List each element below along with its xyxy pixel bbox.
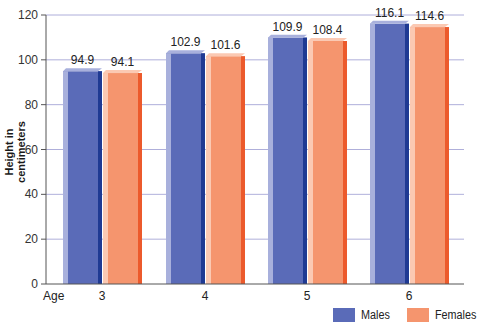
bar-shadow [303, 38, 307, 284]
data-label: 108.4 [312, 23, 342, 37]
bar-top [410, 24, 449, 27]
bar-males [63, 71, 102, 284]
legend-label-males: Males [361, 308, 390, 322]
bar-shadow [138, 73, 142, 284]
bar-highlight [268, 38, 273, 284]
y-tick-label: 0 [31, 277, 38, 291]
bar-highlight [166, 53, 171, 284]
data-label: 102.9 [170, 35, 200, 49]
y-axis-title: Height in centimeters [3, 97, 27, 207]
data-label: 94.9 [71, 53, 95, 67]
y-tick-label: 120 [18, 8, 38, 22]
bar-top [308, 38, 347, 41]
bar-shadow [445, 27, 449, 284]
bar-shadow [343, 41, 347, 284]
bar-top [63, 68, 102, 71]
legend-item-females: Females [407, 308, 481, 322]
bar-highlight [308, 41, 313, 284]
bar-females [308, 41, 347, 284]
bar-highlight [370, 24, 375, 284]
bar-males [166, 53, 205, 284]
bar-top [103, 70, 142, 73]
bar-top [206, 53, 245, 56]
bar-shadow [241, 56, 245, 284]
y-tick-label: 20 [25, 232, 39, 246]
legend-item-males: Males [333, 308, 393, 322]
data-label: 101.6 [210, 38, 240, 52]
bar-highlight [410, 27, 415, 284]
bar-highlight [206, 56, 211, 284]
x-tick-label: 6 [406, 289, 413, 303]
bar-males [268, 38, 307, 284]
bar-top [370, 21, 409, 24]
y-tick-label: 100 [18, 53, 38, 67]
bar-highlight [63, 71, 68, 284]
x-tick-label: 3 [99, 289, 106, 303]
males-swatch [333, 308, 355, 322]
data-label: 116.1 [375, 6, 404, 20]
bar-males [370, 24, 409, 284]
x-axis-title: Age [43, 289, 65, 303]
bar-shadow [405, 24, 409, 284]
bar-top [166, 50, 205, 53]
bar-shadow [98, 71, 102, 284]
bar-females [206, 56, 245, 284]
bar-shadow [201, 53, 205, 284]
data-label: 94.1 [111, 55, 135, 69]
x-tick-label: 5 [304, 289, 311, 303]
bar-females [103, 73, 142, 284]
bar-top [268, 35, 307, 38]
legend-label-females: Females [435, 308, 476, 322]
x-tick-label: 4 [202, 289, 209, 303]
bar-females [410, 27, 449, 284]
data-label: 114.6 [415, 9, 444, 23]
data-label: 109.9 [272, 20, 302, 34]
females-swatch [407, 308, 429, 322]
bar-highlight [103, 73, 108, 284]
